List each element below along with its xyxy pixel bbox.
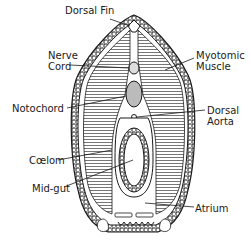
label-myotomic-muscle: Myotomic Muscle (196, 50, 245, 72)
label-atrium: Atrium (195, 203, 229, 214)
nerve-cord (129, 62, 139, 74)
notochord (126, 81, 142, 107)
label-myotomic-line2: Muscle (196, 61, 245, 72)
label-myotomic-line1: Myotomic (196, 50, 245, 61)
label-nerve-cord-line1: Nerve (48, 50, 78, 61)
label-notochord: Notochord (12, 103, 64, 114)
label-nerve-cord: Nerve Cord (48, 50, 78, 72)
label-dorsal-aorta-line1: Dorsal (207, 105, 239, 116)
label-dorsal-fin: Dorsal Fin (65, 5, 114, 16)
label-dorsal-aorta: Dorsal Aorta (207, 105, 239, 127)
label-dorsal-aorta-line2: Aorta (207, 116, 239, 127)
label-mid-gut: Mid-gut (32, 183, 70, 194)
label-coelom: Cœlom (29, 155, 65, 166)
label-nerve-cord-line2: Cord (48, 61, 78, 72)
mid-gut-lumen (124, 134, 144, 186)
